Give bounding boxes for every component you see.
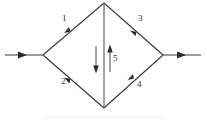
edge-label-5: 5 (113, 54, 118, 63)
scan-artifact (44, 116, 164, 119)
edge-label-2: 2 (61, 77, 66, 86)
edge-2-line (43, 55, 104, 108)
edge-1-line (43, 3, 104, 55)
flow-up-arrow (107, 45, 113, 73)
edge-label-4: 4 (137, 80, 142, 89)
edge-3-line (104, 3, 163, 55)
input-arrow (5, 52, 43, 59)
edge-label-1: 1 (62, 14, 67, 23)
edge-label-3: 3 (138, 14, 143, 23)
output-arrow (163, 52, 201, 59)
diagram-canvas: 1 2 3 4 5 (0, 0, 207, 123)
flow-down-arrow (93, 46, 99, 74)
diagram-svg (0, 0, 207, 123)
